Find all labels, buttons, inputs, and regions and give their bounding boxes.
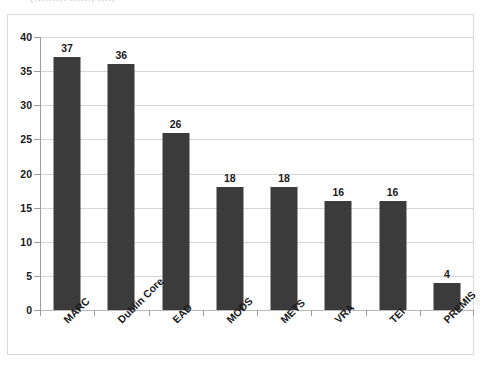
bar-slot: 16 [366,37,420,310]
bar-mets[interactable] [271,187,298,310]
bar-ead[interactable] [162,133,189,310]
y-axis-tick-label: 25 [10,133,32,145]
bar-value-label: 4 [444,268,450,280]
y-axis-tick-label: 35 [10,65,32,77]
bar-value-label: 37 [61,42,73,54]
y-axis-tick-label: 10 [10,236,32,248]
y-tick-25 [34,139,40,140]
y-tick-20 [34,174,40,175]
y-tick-30 [34,105,40,106]
y-tick-40 [34,37,40,38]
bar-slot: 26 [149,37,203,310]
y-tick-35 [34,71,40,72]
y-tick-0 [34,310,40,311]
bar-value-label: 26 [170,118,182,130]
y-axis-tick-label: 30 [10,99,32,111]
bar-slot: 4 [420,37,474,310]
bars-layer: 373626181816164 [40,37,474,310]
y-tick-15 [34,208,40,209]
cut-off-caption-sliver: (……… ……, ….) [30,0,190,6]
bar-vra[interactable] [325,201,352,310]
bar-slot: 18 [203,37,257,310]
y-axis-tick-label: 15 [10,202,32,214]
bar-mods[interactable] [216,187,243,310]
y-tick-5 [34,276,40,277]
bar-slot: 18 [257,37,311,310]
bar-value-label: 18 [224,172,236,184]
y-axis-tick-label: 5 [10,270,32,282]
bar-marc[interactable] [54,57,81,310]
x-axis-labels: MARCDublin CoreEADMODSMETSVRATEIPREMIS [40,315,474,370]
y-axis-tick-label: 0 [10,304,32,316]
y-tick-10 [34,242,40,243]
bar-chart: 0510152025303540 373626181816164 MARCDub… [7,14,474,355]
bar-tei[interactable] [379,201,406,310]
bar-slot: 37 [40,37,94,310]
bar-value-label: 16 [387,186,399,198]
y-axis-tick-label: 20 [10,168,32,180]
bar-dublin-core[interactable] [108,64,135,310]
bar-slot: 16 [311,37,365,310]
y-axis-tick-label: 40 [10,31,32,43]
bar-value-label: 36 [116,49,128,61]
bar-value-label: 18 [278,172,290,184]
bar-value-label: 16 [333,186,345,198]
bar-slot: 36 [94,37,148,310]
y-axis-labels: 0510152025303540 [8,15,32,370]
